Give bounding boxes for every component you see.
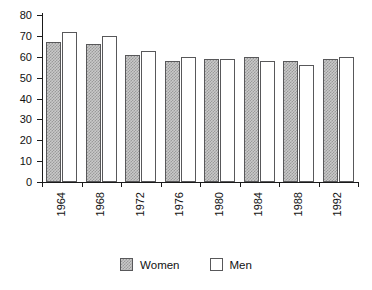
bar-men-1984 xyxy=(260,61,275,182)
legend-item-men: Men xyxy=(210,258,252,271)
y-axis-tick xyxy=(37,78,43,79)
legend-label-men: Men xyxy=(230,259,252,271)
bar-men-1964 xyxy=(62,32,77,182)
chart-legend: WomenMen xyxy=(0,258,372,271)
y-axis-tick xyxy=(37,15,43,16)
x-axis-tick xyxy=(319,182,320,187)
bar-women-1988 xyxy=(283,61,298,182)
y-axis-tick-label: 50 xyxy=(0,73,32,84)
y-axis-tick-label: 10 xyxy=(0,156,32,167)
x-axis-tick xyxy=(42,182,43,187)
x-axis-tick xyxy=(240,182,241,187)
x-axis-tick-label: 1968 xyxy=(95,192,106,216)
bar-men-1988 xyxy=(299,65,314,182)
y-axis-tick-label: 0 xyxy=(0,177,32,188)
y-axis-tick-label: 70 xyxy=(0,31,32,42)
bar-women-1968 xyxy=(86,44,101,182)
y-axis-tick-label: 30 xyxy=(0,114,32,125)
bar-men-1992 xyxy=(339,57,354,182)
bar-women-1976 xyxy=(165,61,180,182)
plot-area xyxy=(42,15,358,182)
y-axis-tick xyxy=(37,57,43,58)
bar-chart: 01020304050607080 1964196819721976198019… xyxy=(0,0,372,290)
bar-women-1980 xyxy=(204,59,219,182)
y-axis-tick-label: 40 xyxy=(0,94,32,105)
x-axis-tick xyxy=(161,182,162,187)
y-axis-tick-label: 80 xyxy=(0,10,32,21)
y-axis-tick xyxy=(37,119,43,120)
bar-men-1980 xyxy=(220,59,235,182)
bar-women-1972 xyxy=(125,55,140,182)
x-axis-tick xyxy=(82,182,83,187)
legend-item-women: Women xyxy=(120,258,179,271)
x-axis-tick-label: 1992 xyxy=(332,192,343,216)
y-axis-tick-label: 60 xyxy=(0,52,32,63)
x-axis-tick-label: 1980 xyxy=(214,192,225,216)
legend-swatch-women xyxy=(120,258,133,271)
y-axis-tick xyxy=(37,140,43,141)
x-axis-tick-label: 1976 xyxy=(174,192,185,216)
x-axis-tick-label: 1964 xyxy=(56,192,67,216)
x-axis-tick xyxy=(121,182,122,187)
bar-women-1964 xyxy=(46,42,61,182)
x-axis-tick xyxy=(200,182,201,187)
bar-men-1968 xyxy=(102,36,117,182)
bar-men-1976 xyxy=(181,57,196,182)
x-axis-tick-label: 1984 xyxy=(253,192,264,216)
bar-men-1972 xyxy=(141,51,156,183)
x-axis-tick-label: 1972 xyxy=(135,192,146,216)
y-axis-tick xyxy=(37,161,43,162)
bar-women-1992 xyxy=(323,59,338,182)
y-axis-tick-label: 20 xyxy=(0,135,32,146)
x-axis-tick xyxy=(279,182,280,187)
legend-swatch-men xyxy=(210,258,223,271)
x-axis-tick-label: 1988 xyxy=(293,192,304,216)
y-axis-tick xyxy=(37,36,43,37)
legend-label-women: Women xyxy=(140,259,179,271)
x-axis-tick xyxy=(358,182,359,187)
y-axis-tick xyxy=(37,99,43,100)
bar-women-1984 xyxy=(244,57,259,182)
